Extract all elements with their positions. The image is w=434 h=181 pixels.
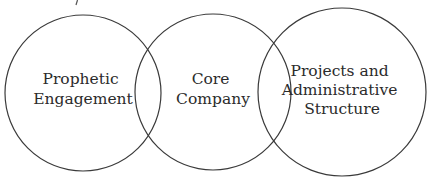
label-line: Core xyxy=(192,70,230,88)
cropped-glyph-fragment xyxy=(76,0,78,5)
circle-label: Projects and Administrative Structure xyxy=(281,62,403,118)
circle-label: Prophetic Engagement xyxy=(33,70,133,108)
circle-prophetic-engagement: Prophetic Engagement xyxy=(5,15,161,171)
label-line: Engagement xyxy=(33,90,133,108)
label-line: Projects and xyxy=(290,62,388,80)
label-line: Administrative xyxy=(281,81,398,99)
circle-label: Core Company xyxy=(176,70,250,108)
venn-diagram: Prophetic Engagement Core Company Projec… xyxy=(0,0,434,181)
label-line: Structure xyxy=(304,100,380,118)
label-line: Prophetic xyxy=(42,70,118,88)
circle-projects-and-administrative-structure: Projects and Administrative Structure xyxy=(258,8,426,176)
circle-core-company: Core Company xyxy=(135,14,291,170)
label-line: Company xyxy=(176,90,250,108)
